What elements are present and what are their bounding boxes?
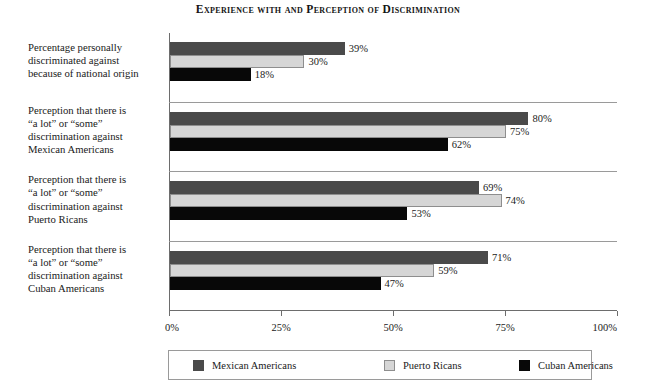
category-label-line: Perception that there is [28,104,164,117]
black-swatch [519,360,530,371]
category-label-line: Puerto Ricans [28,213,164,226]
category-label-line: “a lot” or “some” [28,186,164,199]
category-label: Perception that there is“a lot” or “some… [28,243,164,296]
bar-puerto-ricans[interactable] [170,194,502,207]
x-tick-mark [617,311,618,316]
bar-puerto-ricans[interactable] [170,125,506,138]
plot-area: 0%25%50%75%100% 39%30%18%80%75%62%69%74%… [169,33,617,311]
legend-item-cuban-americans[interactable]: Cuban Americans [519,360,613,371]
legend-item-label: Puerto Ricans [403,360,462,371]
group-separator [169,171,617,172]
bar-cuban-americans[interactable] [170,68,251,81]
bar-value-label: 80% [532,112,551,125]
bar-cuban-americans[interactable] [170,207,407,220]
x-tick-label: 50% [383,322,402,333]
bar-puerto-ricans[interactable] [170,264,434,277]
page-title: Experience with and Perception of Discri… [0,3,656,15]
x-tick-mark [169,311,170,316]
legend-item-mexican-americans[interactable]: Mexican Americans [193,360,296,371]
bar-mexican-americans[interactable] [170,42,345,55]
category-label-line: Perception that there is [28,173,164,186]
x-tick-mark [393,311,394,316]
legend-item-label: Cuban Americans [538,360,613,371]
bar-value-label: 62% [452,138,471,151]
bar-cuban-americans[interactable] [170,138,448,151]
group-separator [169,241,617,242]
category-label-line: discriminated against [28,54,164,67]
bar-value-label: 74% [506,194,525,207]
bar-value-label: 53% [411,207,430,220]
category-label-line: “a lot” or “some” [28,256,164,269]
category-label-line: Mexican Americans [28,143,164,156]
bar-mexican-americans[interactable] [170,251,488,264]
x-tick-mark [505,311,506,316]
category-label-line: because of national origin [28,67,164,80]
bar-value-label: 47% [385,277,404,290]
category-label-line: discrimination against [28,269,164,282]
legend-item-label: Mexican Americans [212,360,296,371]
bar-cuban-americans[interactable] [170,277,381,290]
category-label-line: Cuban Americans [28,282,164,295]
category-label: Percentage personallydiscriminated again… [28,41,164,81]
group-separator [169,102,617,103]
category-label: Perception that there is“a lot” or “some… [28,173,164,226]
bar-value-label: 18% [255,68,274,81]
x-tick-label: 0% [165,322,179,333]
bar-puerto-ricans[interactable] [170,55,304,68]
bar-mexican-americans[interactable] [170,181,479,194]
dark-gray-swatch [193,360,204,371]
bar-value-label: 30% [308,55,327,68]
bar-value-label: 69% [483,181,502,194]
category-label-line: “a lot” or “some” [28,117,164,130]
x-tick-label: 100% [593,322,618,333]
x-tick-label: 25% [271,322,290,333]
category-label-line: discrimination against [28,130,164,143]
bar-value-label: 75% [510,125,529,138]
category-label-line: Percentage personally [28,41,164,54]
light-gray-swatch [384,360,395,371]
category-label-line: Perception that there is [28,243,164,256]
x-tick-mark [281,311,282,316]
legend-item-puerto-ricans[interactable]: Puerto Ricans [384,360,462,371]
bar-mexican-americans[interactable] [170,112,528,125]
legend: Mexican AmericansPuerto RicansCuban Amer… [168,350,592,380]
bar-value-label: 59% [438,264,457,277]
category-label: Perception that there is“a lot” or “some… [28,104,164,157]
x-tick-label: 75% [495,322,514,333]
category-label-line: discrimination against [28,200,164,213]
bar-value-label: 39% [349,42,368,55]
bar-value-label: 71% [492,251,511,264]
